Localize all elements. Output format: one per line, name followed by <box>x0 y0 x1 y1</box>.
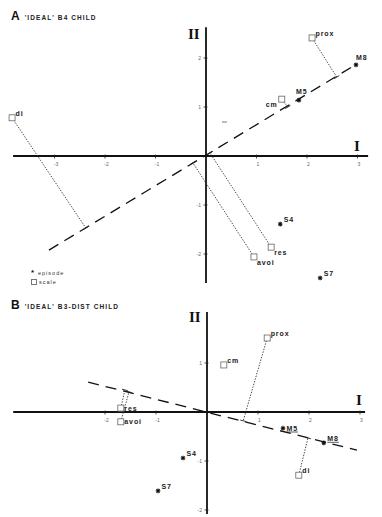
x-tick-label: -2 <box>104 417 109 423</box>
projection-line-prox <box>243 338 267 421</box>
star-marker-icon <box>318 276 323 281</box>
x-tick-label: 3 <box>358 161 361 167</box>
star-marker-icon <box>354 63 359 68</box>
square-marker-icon <box>279 96 285 102</box>
square-marker-icon <box>264 335 270 341</box>
legend-label: episode <box>38 270 64 276</box>
point-label: M5 <box>286 425 298 432</box>
point-label: res <box>124 405 137 412</box>
fit-line-dashed <box>88 382 357 450</box>
y-tick-label: 2 <box>198 55 201 61</box>
point-label: avoi <box>257 259 275 266</box>
projection-line-res <box>210 153 271 247</box>
x-tick-label: 3 <box>360 417 363 423</box>
point-label: prox <box>316 30 335 38</box>
legend-item-scale: scale <box>31 277 64 286</box>
star-marker-icon: * <box>31 270 37 276</box>
star-marker-icon <box>297 98 302 103</box>
point-label: di <box>16 110 24 117</box>
y-tick-label: 1 <box>198 104 201 110</box>
point-label: S4 <box>284 216 294 223</box>
point-label: di <box>302 467 310 474</box>
y-tick-label: -2 <box>198 507 203 513</box>
projection-line-di <box>12 118 86 228</box>
projection-foot-mark <box>240 420 246 421</box>
x-tick-label: 2 <box>307 161 310 167</box>
panel-a-letter: A <box>11 9 20 23</box>
panel-b-title: B 'IDEAL' B3-DIST CHILD <box>11 298 119 312</box>
y-axis-label: II <box>188 26 200 42</box>
projection-foot-mark <box>190 161 195 164</box>
y-tick-label: -1 <box>198 458 203 464</box>
panel-b-plot: -2-11231-1-2IIIM5M8S4S7proxcmdiresavoi <box>13 309 365 514</box>
square-marker-icon <box>31 279 37 285</box>
point-label: avoi <box>124 418 142 425</box>
x-tick-label: 1 <box>257 161 260 167</box>
legend-label: scale <box>39 279 57 285</box>
point-label: M8 <box>327 435 339 442</box>
x-axis-label: I <box>354 138 360 154</box>
star-marker-icon <box>278 222 283 227</box>
x-tick-label: -3 <box>54 161 59 167</box>
x-tick-label: -1 <box>155 161 160 167</box>
point-label: res <box>274 249 287 256</box>
point-label: S7 <box>324 270 334 277</box>
point-label: S4 <box>187 450 197 457</box>
y-tick-label: -2 <box>197 251 202 257</box>
square-marker-icon <box>309 35 315 41</box>
panel-b-letter: B <box>11 298 20 312</box>
point-label: cm <box>227 357 239 364</box>
x-tick-label: 1 <box>258 417 261 423</box>
panel-a-plot: -3-2-112321-1-2IIIM8M5S4S7proxcmdiresavo… <box>9 26 368 283</box>
point-label: S7 <box>162 483 172 490</box>
y-tick-label: 1 <box>199 360 202 366</box>
point-label: M8 <box>356 54 368 61</box>
projection-line-prox <box>312 38 337 77</box>
projection-foot-mark <box>83 226 88 229</box>
panel-a-title: A 'IDEAL' B4 CHILD <box>11 9 97 23</box>
x-tick-label: -1 <box>155 417 160 423</box>
square-marker-icon <box>9 115 15 121</box>
legend: * episode scale <box>31 268 64 286</box>
star-marker-icon <box>181 456 186 461</box>
panel-a-caption: 'IDEAL' B4 CHILD <box>25 14 97 21</box>
square-marker-icon <box>118 405 124 411</box>
point-label: prox <box>271 330 290 338</box>
square-marker-icon <box>118 419 124 425</box>
figure-canvas: -3-2-112321-1-2IIIM8M5S4S7proxcmdiresavo… <box>0 0 382 517</box>
square-marker-icon <box>221 362 227 368</box>
x-tick-label: -2 <box>104 161 109 167</box>
legend-item-episode: * episode <box>31 268 64 277</box>
x-axis-label: I <box>356 392 362 408</box>
point-label: cm <box>266 101 278 108</box>
projection-line-avoi <box>193 163 254 257</box>
point-label: M5 <box>296 88 308 95</box>
star-marker-icon <box>281 426 286 431</box>
square-marker-icon <box>296 472 302 478</box>
star-marker-icon <box>156 489 161 494</box>
y-axis-label: II <box>189 309 201 325</box>
panel-b-caption: 'IDEAL' B3-DIST CHILD <box>25 303 119 310</box>
star-marker-icon <box>321 441 326 446</box>
x-tick-label: 2 <box>309 417 312 423</box>
y-tick-label: -1 <box>197 202 202 208</box>
